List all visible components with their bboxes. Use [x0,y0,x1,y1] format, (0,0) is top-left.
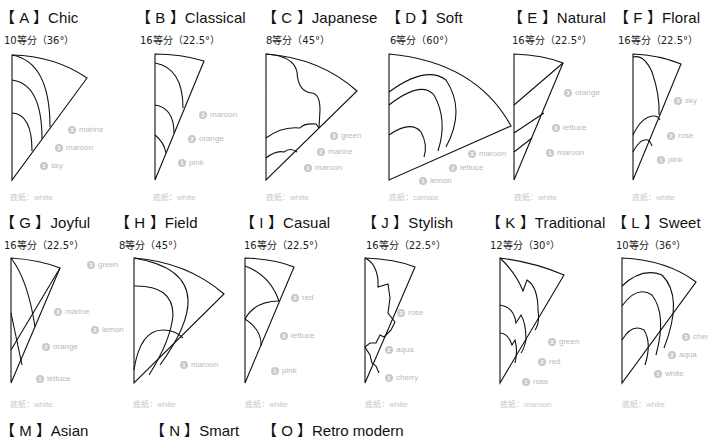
base-paper-label: 底紙：white [365,398,408,409]
layer-label: 3marine [68,125,103,134]
layer-label: 3orange [564,88,600,97]
base-paper-label: 底紙：white [245,398,288,409]
base-paper-label: 底紙：camaie [389,191,439,202]
layer-label: 1sky [40,161,63,170]
layer-label: 1pink [271,366,297,375]
layer-label: 3red [291,293,314,302]
base-paper-label: 底紙：white [10,191,53,202]
panel-traditional: 【 K 】Traditional 12等分（30°） 3green 2red 1… [486,205,606,410]
layer-label: 2red [538,357,561,366]
panel-floral: 【 F 】Floral 16等分（22.5°） 3sky 2rose 1pink… [614,0,708,205]
layer-label: 1lemon [419,176,452,185]
layer-label: 2rose [667,131,694,140]
layer-label: 3maroon [468,149,506,158]
layer-label: 1rose [522,377,549,386]
fold-pattern-diagram [136,0,256,205]
panel-field: 【 H 】Field 8等分（45°） 3green 2lemon 1maroo… [115,205,235,410]
layer-label: 3sky [674,96,697,105]
layer-label: 2aqua [385,345,414,354]
fold-pattern-diagram [386,0,526,205]
panel-stylish: 【 J 】Stylish 16等分（22.5°） 3rose 2aqua 1ch… [362,205,482,410]
layer-label: 3maroon [199,110,237,119]
base-paper-label: 底紙：maroon [500,398,551,409]
fold-pattern-diagram [240,205,360,410]
layer-label: 2lettuce [552,123,587,132]
fold-pattern-diagram [508,0,628,205]
layer-label: 2maroon [55,143,93,152]
layer-label: 1lettuce [36,374,71,383]
layer-label: 1maroon [304,163,342,172]
panel-natural: 【 E 】Natural 16等分（22.5°） 3orange 2lettuc… [508,0,628,205]
panel-title-asian: 【 M 】Asian [0,419,88,440]
base-paper-label: 底紙：white [10,398,53,409]
fold-pattern-diagram [612,205,708,410]
panel-title-retro-modern: 【 O 】Retro modern [262,419,404,440]
layer-label: 1cherry [385,373,418,382]
base-paper-label: 底紙：white [632,191,675,202]
layer-label: 2lettuce [449,163,484,172]
base-paper-label: 底紙：white [133,398,176,409]
layer-label: 2orange [188,134,224,143]
layer-label: 3cherry [682,332,708,341]
layer-label: 1pink [657,155,683,164]
layer-label: 3marine [54,307,89,316]
panel-joyful: 【 G 】Joyful 16等分（22.5°） 3marine 2orange … [0,205,120,410]
layer-label: 1maroon [546,148,584,157]
panel-soft: 【 D 】Soft 6等分（60°） 3maroon 2lettuce 1lem… [386,0,506,205]
layer-label: 2lettuce [280,331,315,340]
layer-label: 3green [330,131,361,140]
layer-label: 3green [548,337,579,346]
panel-title-smart: 【 N 】Smart [150,419,239,440]
panel-classical: 【 B 】Classical 16等分（22.5°） 3maroon 2oran… [136,0,256,205]
base-paper-label: 底紙：white [153,191,196,202]
layer-label: 3rose [397,308,424,317]
fold-pattern-diagram [0,0,120,205]
layer-label: 1pink [178,158,204,167]
layer-label: 3green [87,260,118,269]
layer-label: 1maroon [180,360,218,369]
fold-pattern-diagram [262,0,392,205]
base-paper-label: 底紙：white [266,191,309,202]
panel-casual: 【 I 】Casual 16等分（22.5°） 3red 2lettuce 1p… [240,205,360,410]
panel-chic: 【 A 】Chic 10等分（36°） 3marine 2maroon 1sky… [0,0,120,205]
base-paper-label: 底紙：white [622,398,665,409]
layer-label: 2marine [317,147,352,156]
layer-label: 2aqua [668,350,697,359]
layer-label: 2lemon [91,325,124,334]
panel-japanese: 【 C 】Japanese 8等分（45°） 3green 2marine 1m… [262,0,382,205]
base-paper-label: 底紙：white [514,191,557,202]
panel-sweet: 【 L 】Sweet 10等分（36°） 3cherry 2aqua 1whit… [612,205,708,410]
layer-label: 1white [654,369,684,378]
fold-pattern-diagram [115,205,245,410]
layer-label: 2orange [42,342,78,351]
